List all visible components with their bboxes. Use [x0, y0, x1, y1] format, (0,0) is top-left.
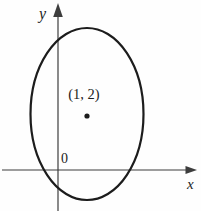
x-axis-arrowhead-icon [186, 166, 198, 174]
ellipse-diagram: y x 0 (1, 2) [0, 0, 201, 211]
diagram-svg: y x 0 (1, 2) [0, 0, 201, 211]
origin-label: 0 [61, 151, 68, 166]
y-axis-label: y [37, 5, 47, 23]
y-axis-arrowhead-icon [53, 3, 63, 17]
x-axis-label: x [186, 176, 194, 192]
center-point-label: (1, 2) [68, 86, 100, 103]
center-point-dot [84, 113, 89, 118]
